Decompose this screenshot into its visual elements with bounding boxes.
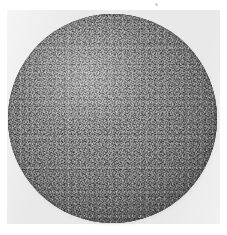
- scan-speck-artifact: [155, 3, 158, 6]
- image-canvas: Circular specimen plate: [0, 0, 227, 235]
- disc-rim-shading: [8, 14, 217, 223]
- disc-body: [8, 14, 217, 223]
- circular-specimen: [8, 14, 217, 223]
